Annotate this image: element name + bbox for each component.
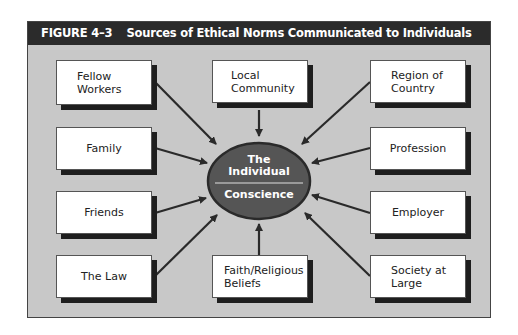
source-label-line2: Beliefs bbox=[224, 277, 304, 290]
source-box-region-of-country: Region ofCountry bbox=[370, 60, 466, 103]
source-box-family: Family bbox=[56, 127, 152, 170]
source-label-line1: Region of bbox=[391, 69, 443, 82]
source-label: Family bbox=[86, 142, 121, 155]
source-box-fellow-workers: FellowWorkers bbox=[56, 60, 152, 105]
source-label: Friends bbox=[84, 206, 124, 219]
arrow-profession bbox=[312, 148, 370, 163]
arrow-region-of-country bbox=[302, 82, 370, 144]
source-label-line2: Workers bbox=[77, 83, 121, 96]
source-label-line2: Community bbox=[231, 82, 295, 95]
source-box-society-at-large: Society atLarge bbox=[370, 255, 466, 298]
arrow-society bbox=[305, 213, 370, 276]
arrow-fellow-workers bbox=[155, 82, 216, 144]
source-label-line2: Large bbox=[391, 277, 446, 290]
source-label-line1: Fellow bbox=[77, 70, 121, 83]
arrow-friends bbox=[155, 198, 206, 213]
source-label-line1: Faith/Religious bbox=[224, 264, 304, 277]
source-label: Employer bbox=[392, 206, 444, 219]
source-label-line2: Country bbox=[391, 82, 443, 95]
source-box-friends: Friends bbox=[56, 191, 152, 234]
center-label-line2: Individual bbox=[209, 166, 309, 178]
arrow-employer bbox=[312, 195, 370, 213]
source-box-faith-religious-beliefs: Faith/ReligiousBeliefs bbox=[212, 255, 308, 298]
source-label: The Law bbox=[81, 270, 127, 283]
arrow-the-law bbox=[155, 215, 217, 276]
center-label-conscience: Conscience bbox=[209, 189, 309, 201]
source-label: Profession bbox=[390, 142, 446, 155]
source-label-line1: Society at bbox=[391, 264, 446, 277]
source-label-line1: Local bbox=[231, 69, 295, 82]
source-box-profession: Profession bbox=[370, 127, 466, 170]
center-label-individual: The Individual bbox=[209, 154, 309, 178]
source-box-local-community: LocalCommunity bbox=[212, 60, 308, 103]
arrow-family bbox=[155, 148, 207, 163]
source-box-the-law: The Law bbox=[56, 255, 152, 298]
source-box-employer: Employer bbox=[370, 191, 466, 234]
